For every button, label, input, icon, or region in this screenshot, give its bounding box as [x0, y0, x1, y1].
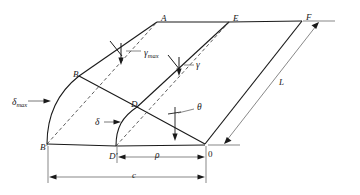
- vertex-label-B: B: [73, 70, 79, 79]
- figure-linework: [0, 0, 360, 195]
- c-arrowhead-right: [198, 174, 206, 179]
- gamma-max-label: γmax: [144, 49, 159, 59]
- dimension-label-c: c: [132, 171, 136, 180]
- dimension-label-rho: ρ: [155, 151, 160, 161]
- delta-max-subscript: max: [16, 101, 27, 108]
- dimension-label-L: L: [279, 78, 284, 87]
- dimension-rho: [117, 146, 206, 163]
- delta-max-arrow: [28, 98, 51, 103]
- theta-arrowhead: [172, 134, 177, 142]
- dimension-c: [48, 146, 206, 183]
- vertex-label-origin: 0: [208, 150, 213, 159]
- front-top-edges: [79, 76, 205, 144]
- theta-leader: [178, 109, 194, 113]
- L-arrowhead-bottom: [224, 137, 232, 144]
- edge-B-D-O: [79, 76, 205, 144]
- vertex-label-B-prime: B': [40, 143, 47, 152]
- top-edge-AEF: [157, 21, 302, 22]
- slant-edges: [79, 21, 302, 144]
- dashed-Dprime-E: [116, 22, 229, 146]
- gamma-max-marker: [110, 41, 141, 65]
- dimension-L: [208, 21, 335, 145]
- edge-Bprime-Dprime-O: [47, 144, 205, 146]
- delta-max-label: δmax: [12, 98, 27, 108]
- L-shaft: [227, 26, 316, 140]
- top-face-edges: [157, 21, 302, 22]
- delta-max-arrowhead: [44, 98, 52, 103]
- curve-Bprime-B: [47, 76, 79, 144]
- vertex-label-D: D: [131, 100, 138, 109]
- gamma-label: γ: [196, 61, 200, 71]
- gamma-max-arrowhead: [118, 58, 123, 66]
- vertex-label-F: F: [306, 13, 312, 22]
- delta-arrowhead: [114, 119, 122, 124]
- delta-arrow: [104, 119, 121, 124]
- base-edges: [47, 144, 205, 146]
- theta-label: θ: [197, 103, 202, 113]
- gamma-arrowhead: [176, 69, 181, 77]
- rho-arrowhead-left: [118, 154, 126, 159]
- vertex-label-E: E: [233, 14, 239, 23]
- shear-curves: [47, 76, 137, 146]
- gamma-tick: [168, 55, 180, 70]
- L-arrowhead-top: [312, 22, 320, 29]
- rho-arrowhead-right: [198, 154, 206, 159]
- vertex-label-D-prime: D': [109, 152, 117, 161]
- delta-label: δ: [95, 118, 99, 128]
- vertex-label-A: A: [161, 14, 167, 23]
- gamma-max-subscript: max: [148, 52, 159, 59]
- c-arrowhead-left: [49, 174, 57, 179]
- edge-E-D: [137, 22, 229, 107]
- edge-F-O: [205, 21, 302, 144]
- dashed-Bprime-A: [47, 22, 157, 144]
- dashed-reference-lines: [47, 22, 229, 146]
- shear-deformation-figure: A E F B D B' D' 0 γmax γ δmax δ θ L ρ c: [0, 0, 360, 195]
